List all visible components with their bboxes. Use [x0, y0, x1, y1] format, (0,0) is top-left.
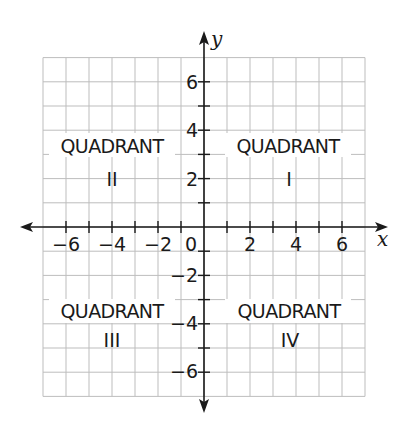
- coordinate-plane: y x −6 −4 −2 2 4 6 0 6 4 2 −2 −4 −6 QUAD…: [0, 0, 405, 423]
- y-tick-label: −2: [170, 264, 198, 286]
- quadrant-numeral: I: [286, 168, 292, 190]
- y-tick-label: 4: [186, 119, 198, 141]
- quadrant-title: QUADRANT: [237, 135, 341, 157]
- quadrant-label-backgrounds: [49, 133, 351, 323]
- y-tick-label: 2: [186, 168, 198, 190]
- quadrant-i-label: QUADRANT I: [237, 135, 341, 190]
- x-tick-label: −6: [52, 233, 80, 255]
- origin-label: 0: [185, 233, 197, 255]
- x-tick-label: 4: [290, 233, 302, 255]
- quadrant-title: QUADRANT: [61, 300, 165, 322]
- y-tick-label: −6: [170, 360, 198, 382]
- x-tick-label: 2: [244, 233, 256, 255]
- quadrant-title: QUADRANT: [238, 300, 342, 322]
- y-tick-label: 6: [186, 71, 198, 93]
- x-axis-label: x: [377, 227, 388, 251]
- y-axis-label: y: [210, 27, 223, 51]
- quadrant-title: QUADRANT: [61, 135, 165, 157]
- axes: [20, 31, 388, 413]
- quadrant-numeral: IV: [281, 329, 300, 351]
- x-tick-label: −2: [144, 233, 172, 255]
- quadrant-numeral: III: [104, 329, 121, 351]
- x-tick-label: −4: [98, 233, 126, 255]
- quadrant-numeral: II: [106, 168, 117, 190]
- x-tick-label: 6: [336, 233, 348, 255]
- quadrant-iv-label: QUADRANT IV: [238, 300, 342, 351]
- y-tick-label: −4: [170, 312, 198, 334]
